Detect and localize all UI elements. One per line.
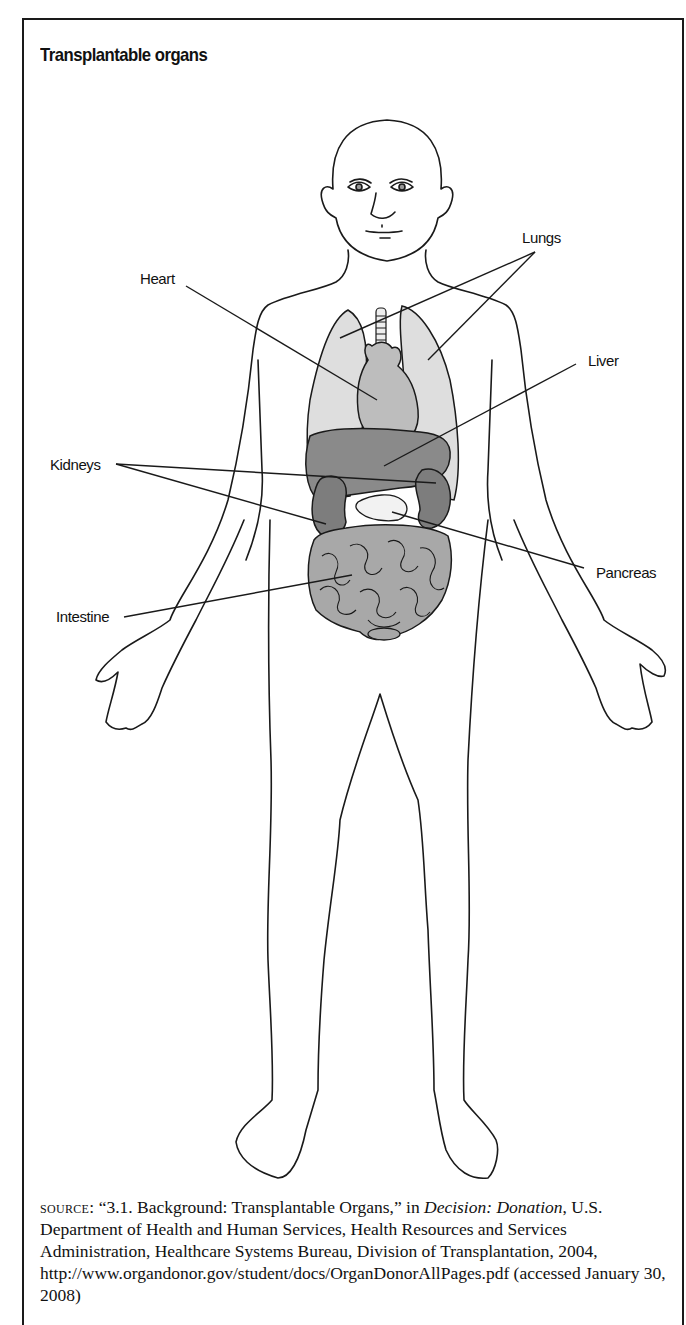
label-kidneys: Kidneys xyxy=(50,456,101,473)
label-pancreas: Pancreas xyxy=(596,564,656,581)
leader-kidneys-2 xyxy=(116,464,326,524)
source-caption: source: “3.1. Background: Transplantable… xyxy=(40,1196,670,1306)
label-heart: Heart xyxy=(140,270,176,287)
leader-lungs-left xyxy=(340,252,535,338)
source-publication: Decision: Donation xyxy=(424,1197,563,1217)
head-outline xyxy=(321,120,452,261)
intestine xyxy=(308,525,451,640)
source-quote: “3.1. Background: Transplantable Organs,… xyxy=(99,1197,424,1217)
source-prefix: source: xyxy=(40,1197,94,1217)
human-body-diagram: Lungs Heart Liver Kidneys Pancreas Intes… xyxy=(0,0,686,1325)
torso-right xyxy=(426,250,666,729)
label-lungs: Lungs xyxy=(522,229,561,246)
pancreas xyxy=(356,495,407,521)
label-intestine: Intestine xyxy=(56,608,109,625)
kidney-left xyxy=(312,476,346,537)
label-liver: Liver xyxy=(588,352,619,369)
leader-lungs-right xyxy=(428,252,535,360)
kidney-right xyxy=(416,469,451,528)
